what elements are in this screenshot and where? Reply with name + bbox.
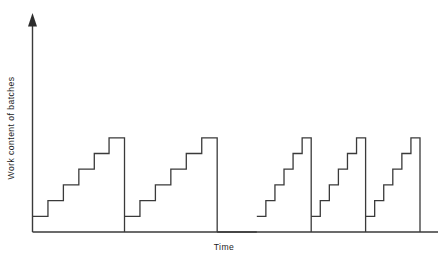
data-cycle-5 [366, 138, 420, 232]
data-cycle-4 [311, 138, 365, 232]
data-cycle-3 [257, 138, 311, 232]
x-axis-label: Time [214, 242, 235, 252]
y-axis-label: Work content of batches [6, 77, 16, 180]
data-cycle-2 [125, 138, 218, 232]
chart-canvas: Work content of batches Time [0, 0, 446, 257]
y-axis-arrow-icon [28, 13, 37, 27]
chart-figure: Work content of batches Time [0, 0, 446, 257]
data-cycle-1 [33, 138, 125, 232]
